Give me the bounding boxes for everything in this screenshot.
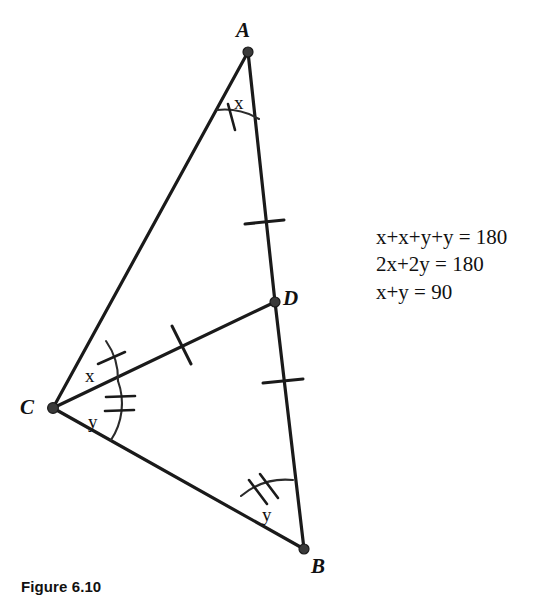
vertex-label-B: B xyxy=(311,556,325,577)
angle-label-C-lower: y xyxy=(88,412,98,431)
figure-caption: Figure 6.10 xyxy=(21,578,101,595)
angle-label-B: y xyxy=(262,505,272,524)
equation-line-2: 2x+2y = 180 xyxy=(376,251,507,278)
segment-CD xyxy=(53,302,275,408)
equation-block: x+x+y+y = 180 2x+2y = 180 x+y = 90 xyxy=(376,224,507,306)
angle-label-C-upper: x xyxy=(85,366,95,385)
vertex-label-D: D xyxy=(283,288,298,309)
vertex-dot-D xyxy=(270,297,280,307)
segment-DB xyxy=(275,302,304,549)
vertex-dot-C xyxy=(48,403,59,414)
vertex-label-C: C xyxy=(20,397,34,418)
segment-AD xyxy=(248,52,275,302)
equation-line-1: x+x+y+y = 180 xyxy=(376,224,507,251)
angle-tick-C-lower-1 xyxy=(106,396,135,397)
equation-line-3: x+y = 90 xyxy=(376,279,507,306)
geometry-figure: A B C D x x y y x+x+y+y = 180 2x+2y = 18… xyxy=(0,0,551,605)
tick-segment-AD xyxy=(245,220,284,224)
vertex-label-A: A xyxy=(236,20,250,41)
angle-tick-B-2 xyxy=(260,474,278,498)
segment-AC xyxy=(53,52,248,408)
tick-segment-DB xyxy=(263,379,303,383)
vertex-dot-B xyxy=(299,544,309,554)
angle-label-A: x xyxy=(234,93,244,112)
angle-tick-C-upper-1 xyxy=(98,352,125,364)
vertex-dot-A xyxy=(243,47,253,57)
angle-tick-C-lower-2 xyxy=(105,410,134,411)
